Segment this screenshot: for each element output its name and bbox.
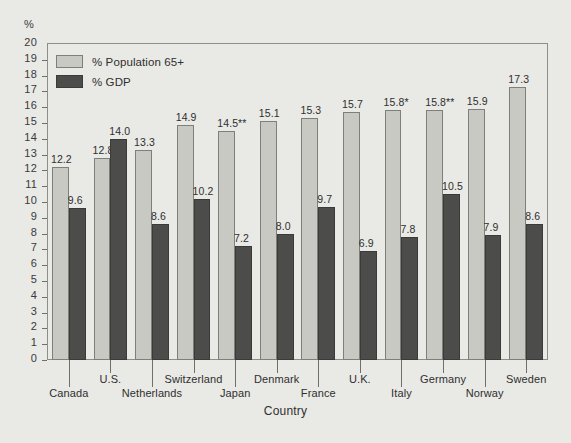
chart-root: % 20191817161514131211109876543210 12.29… [0,0,571,443]
bar-pop[interactable] [260,121,277,360]
bar-pop[interactable] [468,109,485,360]
y-axis-tick-label: 8 [31,226,37,238]
bar-group: 15.18.0 [256,44,298,360]
bar-value-label: 10.5 [442,180,463,192]
x-axis-tick-label: Denmark [254,373,299,385]
bar-pop[interactable] [385,110,402,360]
bar-gdp[interactable] [360,251,377,360]
bar-value-label: 6.9 [359,237,374,249]
bar-value-label: 15.9 [467,95,488,107]
bar-gdp[interactable] [194,199,211,360]
y-axis-tick-label: 19 [24,52,37,64]
y-axis: 20191817161514131211109876543210 [0,0,47,361]
x-axis-tick-label: Sweden [506,373,546,385]
bar-gdp[interactable] [152,224,169,360]
x-axis-tick-label: Netherlands [122,387,182,399]
bar-value-label: 15.7 [342,98,363,110]
bar-gdp[interactable] [443,194,460,360]
bar-value-label: 15.1 [259,107,280,119]
y-axis-tick-label: 9 [31,210,37,222]
y-axis-tick-label: 5 [31,273,37,285]
y-axis-tick-label: 4 [31,289,37,301]
y-axis-tick-label: 15 [24,115,37,127]
x-axis-tick-label: Canada [49,387,88,399]
bar-value-label: 7.9 [484,221,499,233]
bar-value-label: 7.2 [234,232,249,244]
bar-pop[interactable] [135,150,152,360]
x-axis-tick-label: U.K. [349,373,371,385]
bar-group: 15.76.9 [339,44,381,360]
bar-group: 17.38.6 [505,44,547,360]
x-axis-tick-mark [152,360,153,387]
bar-pop[interactable] [343,112,360,360]
y-axis-tick-label: 20 [24,36,37,48]
bar-value-label: 8.6 [151,210,166,222]
bar-group: 15.39.7 [298,44,340,360]
legend-label: % GDP [92,76,131,88]
y-axis-tick-label: 11 [25,178,37,190]
x-axis-tick-label: France [301,387,336,399]
y-axis-tick-label: 2 [31,320,37,332]
bar-value-label: 15.8* [384,96,409,108]
legend-item[interactable]: % GDP [56,75,184,88]
y-axis-tick-label: 14 [24,131,37,143]
legend-swatch-pop [56,55,83,68]
y-axis-tick-label: 10 [24,194,37,206]
legend-swatch-gdp [56,75,83,88]
bar-value-label: 8.0 [276,220,291,232]
x-axis-tick-label: Norway [466,387,504,399]
x-axis-tick-mark [277,360,278,373]
bar-gdp[interactable] [277,234,294,360]
y-axis-tick-label: 18 [24,68,37,80]
bar-pop[interactable] [94,158,111,360]
bar-gdp[interactable] [235,246,252,360]
x-axis-tick-mark [235,360,236,387]
bar-value-label: 12.2 [51,153,72,165]
y-axis-tick-label: 3 [31,305,37,317]
x-axis-tick-mark [69,360,70,387]
bar-gdp[interactable] [485,235,502,360]
x-axis-tick-label: Italy [391,387,412,399]
bar-gdp[interactable] [526,224,543,360]
bar-gdp[interactable] [69,208,86,360]
bar-value-label: 15.8** [425,96,454,108]
x-axis-tick-label: Switzerland [165,373,223,385]
bar-pop[interactable] [509,87,526,360]
bar-pop[interactable] [426,110,443,360]
x-axis-tick-mark [360,360,361,373]
bar-gdp[interactable] [318,207,335,360]
bar-value-label: 13.3 [134,136,155,148]
y-axis-tick-label: 13 [24,147,37,159]
bar-gdp[interactable] [401,237,418,360]
bar-group: 15.8**10.5 [422,44,464,360]
x-axis-tick-mark [194,360,195,373]
bar-value-label: 7.8 [400,223,415,235]
x-axis-title: Country [0,404,571,418]
y-axis-tick-label: 16 [24,99,37,111]
bar-group: 15.8*7.8 [381,44,423,360]
x-axis-tick-label: Germany [420,373,466,385]
legend-item[interactable]: % Population 65+ [56,55,184,68]
bar-value-label: 14.9 [176,111,197,123]
bar-pop[interactable] [52,167,69,360]
bar-value-label: 15.3 [300,104,321,116]
bar-value-label: 10.2 [193,185,214,197]
bar-pop[interactable] [218,131,235,360]
y-axis-tick-label: 6 [31,257,37,269]
y-axis-tick-label: 12 [24,162,37,174]
x-axis-tick-mark [443,360,444,373]
y-axis-tick-label: 1 [31,336,37,348]
x-axis-tick-mark [110,360,111,373]
bar-value-label: 14.5** [217,117,246,129]
bar-pop[interactable] [301,118,318,360]
x-axis-tick-label: U.S. [99,373,121,385]
x-axis-tick-mark [318,360,319,387]
x-axis-tick-mark [485,360,486,387]
bar-value-label: 9.6 [68,194,83,206]
chart-legend: % Population 65+% GDP [56,55,184,95]
bar-value-label: 8.6 [525,210,540,222]
bar-group: 14.5**7.2 [214,44,256,360]
legend-label: % Population 65+ [92,56,184,68]
bar-gdp[interactable] [110,139,127,360]
bar-pop[interactable] [177,125,194,360]
